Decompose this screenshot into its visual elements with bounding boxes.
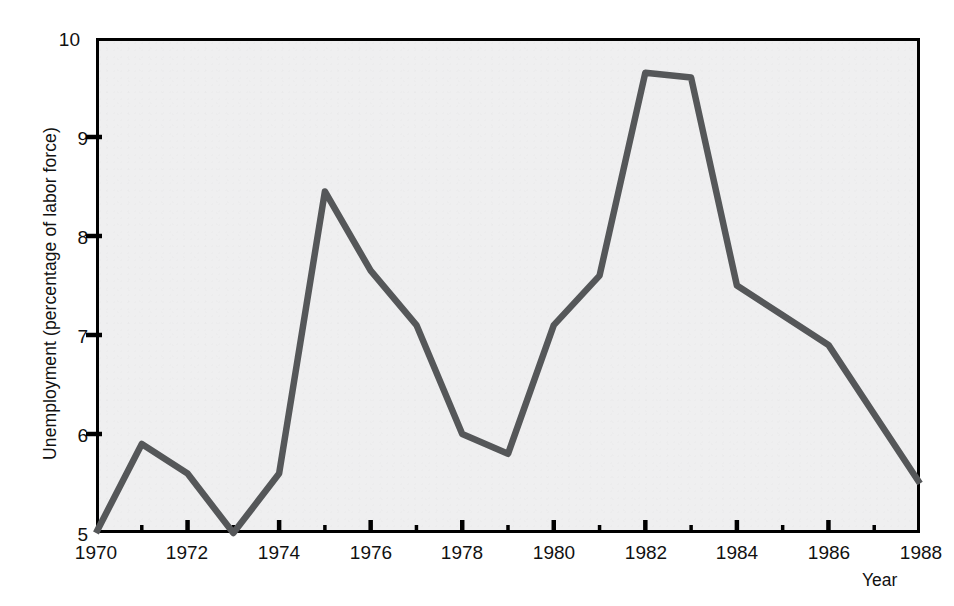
y-axis-title: Unemployment (percentage of labor force) [40,34,61,554]
x-tick-label-1978: 1978 [427,543,497,562]
x-tick-label-1972: 1972 [152,543,222,562]
x-tick-label-1982: 1982 [611,543,681,562]
x-tick-label-1988: 1988 [886,543,954,562]
y-tick-label-7: 7 [48,327,88,346]
x-tick-label-1970: 1970 [61,543,131,562]
x-axis-title: Year [862,570,897,591]
x-tick-label-1986: 1986 [794,543,864,562]
x-tick-label-1976: 1976 [336,543,406,562]
unemployment-line-chart-figure: Unemployment (percentage of labor force)… [0,0,954,606]
x-tick-label-1974: 1974 [244,543,314,562]
y-tick-label-10: 10 [40,30,80,49]
y-tick-label-9: 9 [48,129,88,148]
x-tick-label-1980: 1980 [519,543,589,562]
paper-texture [99,41,917,530]
y-tick-label-8: 8 [48,228,88,247]
x-tick-label-1984: 1984 [702,543,772,562]
plot-area [96,38,920,533]
y-tick-label-6: 6 [48,426,88,445]
